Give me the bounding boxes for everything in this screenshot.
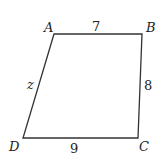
vertex-label-b: B bbox=[145, 20, 156, 35]
quadrilateral-diagram: A B C D 7 8 9 z bbox=[0, 0, 160, 158]
vertex-label-d: D bbox=[8, 139, 20, 154]
vertex-label-a: A bbox=[43, 20, 53, 35]
side-label-ab: 7 bbox=[92, 19, 100, 34]
side-label-cd: 9 bbox=[70, 141, 78, 156]
side-label-da: z bbox=[26, 77, 34, 92]
quadrilateral-abcd bbox=[23, 34, 142, 138]
vertex-label-c: C bbox=[139, 139, 149, 154]
side-label-bc: 8 bbox=[144, 78, 152, 93]
